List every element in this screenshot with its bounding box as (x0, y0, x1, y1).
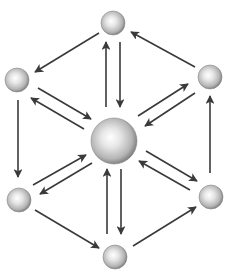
spoke-arrow-lower-right-to-center (139, 161, 190, 190)
spoke-arrow-center-to-upper-right (138, 84, 188, 116)
ring-arrow-upper-right-to-top (131, 32, 195, 67)
spoke-arrow-upper-left-to-center (38, 88, 91, 119)
diagram-canvas (0, 0, 229, 277)
node-top-sphere (101, 11, 125, 35)
node-lower-right-sphere (199, 185, 223, 209)
spoke-arrow-center-to-lower-right (146, 151, 197, 181)
ring-arrow-top-to-upper-left (35, 33, 99, 72)
ring-arrow-lower-left-to-bottom (35, 210, 99, 248)
spoke-arrow-center-to-lower-left (40, 163, 92, 194)
spoke-arrow-upper-right-to-center (145, 93, 195, 126)
spoke-arrow-center-to-upper-left (31, 98, 84, 129)
node-lower-left-sphere (7, 188, 31, 212)
spoke-arrow-lower-left-to-center (33, 155, 86, 185)
nodes-layer (5, 11, 223, 269)
network-diagram (0, 0, 229, 277)
node-center-sphere (91, 118, 137, 164)
node-upper-left-sphere (5, 68, 29, 92)
node-upper-right-sphere (198, 65, 222, 89)
ring-arrow-bottom-to-lower-right (133, 207, 196, 246)
node-bottom-sphere (103, 245, 127, 269)
